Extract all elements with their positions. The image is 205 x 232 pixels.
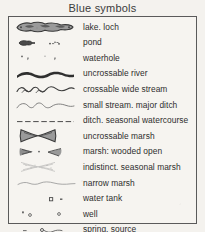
uncrossable-river-symbol xyxy=(9,66,83,82)
list-item: crossable wide stream xyxy=(9,81,196,97)
list-item-label: spring. source xyxy=(83,225,136,232)
list-item: spring. source xyxy=(9,222,196,232)
list-item: ditch. seasonal watercourse xyxy=(9,113,196,129)
list-item: pond xyxy=(9,35,196,51)
water-tank-symbol xyxy=(9,191,83,207)
lake-blob-symbol xyxy=(9,19,83,35)
legend-rows: lake. loch pond xyxy=(9,17,196,223)
pond-symbol xyxy=(9,35,83,51)
list-item-label: marsh: wooded open xyxy=(83,147,162,155)
list-item: lake. loch xyxy=(9,19,196,35)
list-item-label: narrow marsh xyxy=(83,179,135,187)
list-item-label: uncrossable river xyxy=(83,69,148,77)
small-stream-symbol xyxy=(9,97,83,113)
page-title: Blue symbols xyxy=(0,2,205,14)
list-item-label: indistinct. seasonal marsh xyxy=(83,163,181,171)
list-item: uncrossable river xyxy=(9,66,196,82)
list-item: water tank xyxy=(9,191,196,207)
list-item-label: ditch. seasonal watercourse xyxy=(83,116,188,124)
list-item: marsh: wooded open xyxy=(9,144,196,160)
list-item: well xyxy=(9,206,196,222)
list-item: indistinct. seasonal marsh xyxy=(9,159,196,175)
list-item-label: water tank xyxy=(83,194,122,202)
list-item-label: small stream. major ditch xyxy=(83,101,177,109)
indistinct-marsh-symbol xyxy=(9,159,83,175)
list-item-label: crossable wide stream xyxy=(83,85,167,93)
blue-symbols-legend: Blue symbols lake. loch xyxy=(0,0,205,232)
list-item-label: uncrossable marsh xyxy=(83,132,155,140)
marsh-wooded-open-symbol xyxy=(9,144,83,160)
list-item-label: pond xyxy=(83,38,102,46)
legend-frame: lake. loch pond xyxy=(8,16,197,224)
list-item-label: lake. loch xyxy=(83,23,119,31)
crossable-wide-stream-symbol xyxy=(9,81,83,97)
list-item-label: well xyxy=(83,210,98,218)
list-item: narrow marsh xyxy=(9,175,196,191)
list-item: uncrossable marsh xyxy=(9,128,196,144)
narrow-marsh-symbol xyxy=(9,175,83,191)
uncrossable-marsh-symbol xyxy=(9,128,83,144)
list-item: small stream. major ditch xyxy=(9,97,196,113)
well-symbol xyxy=(9,206,83,222)
spring-source-symbol xyxy=(9,222,83,232)
list-item-label: waterhole xyxy=(83,54,120,62)
list-item: waterhole xyxy=(9,50,196,66)
waterhole-symbol xyxy=(9,50,83,66)
ditch-dashed-line-symbol xyxy=(9,113,83,129)
